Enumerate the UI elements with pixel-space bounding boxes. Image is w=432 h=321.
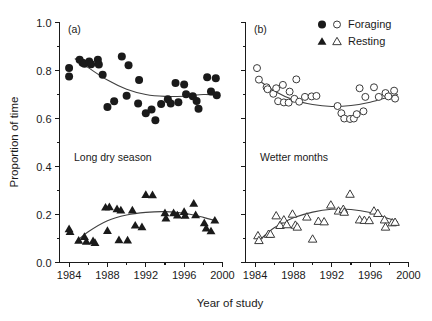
panel-label: (a) <box>68 23 81 35</box>
data-point-foraging <box>65 73 73 81</box>
data-point-foraging <box>385 93 392 100</box>
data-point-foraging <box>193 97 201 105</box>
x-tick-label: 1996 <box>172 269 196 281</box>
data-point-foraging <box>279 81 286 88</box>
x-tick-label: 1988 <box>281 269 305 281</box>
data-point-foraging <box>353 111 360 118</box>
panel-annotation: Wetter months <box>260 151 328 163</box>
y-axis-title: Proportion of time <box>8 97 20 188</box>
x-tick-label: 2000 <box>396 269 420 281</box>
x-axis-title: Year of study <box>197 297 264 309</box>
data-point-foraging <box>134 99 142 107</box>
data-point-foraging <box>360 108 367 115</box>
x-tick-label: 1996 <box>358 269 382 281</box>
data-point-foraging <box>135 76 143 84</box>
x-tick-label: 1992 <box>320 269 344 281</box>
data-point-foraging <box>65 64 73 72</box>
data-point-foraging <box>174 98 182 106</box>
data-point-foraging <box>157 100 165 108</box>
data-point-foraging <box>195 105 203 113</box>
y-tick-label: 1.0 <box>36 17 51 29</box>
data-point-foraging <box>313 92 320 99</box>
data-point-foraging <box>203 73 211 81</box>
data-point-foraging <box>103 103 111 111</box>
data-point-foraging <box>213 91 221 99</box>
y-tick-label: 0.6 <box>36 113 51 125</box>
data-point-foraging <box>293 76 300 83</box>
x-tick-label: 1984 <box>243 269 267 281</box>
y-tick-label: 0.0 <box>36 257 51 269</box>
legend-label-foraging: Foraging <box>348 18 391 30</box>
x-tick-label: 1988 <box>95 269 119 281</box>
y-tick-label: 0.8 <box>36 65 51 77</box>
data-point-foraging <box>362 93 369 100</box>
data-point-foraging <box>392 95 399 102</box>
data-point-foraging <box>286 88 293 95</box>
x-tick-label: 1984 <box>57 269 81 281</box>
data-point-foraging <box>301 93 308 100</box>
data-point-foraging <box>255 76 262 83</box>
y-tick-label: 0.4 <box>36 161 51 173</box>
scatter-chart: 0.00.20.40.60.81.019841988199219962000(a… <box>0 0 432 321</box>
data-point-foraging <box>296 98 303 105</box>
data-point-foraging <box>391 87 398 94</box>
figure-container: 0.00.20.40.60.81.019841988199219962000(a… <box>0 0 432 321</box>
data-point-foraging <box>99 71 107 79</box>
x-tick-label: 2000 <box>210 269 234 281</box>
panel-annotation: Long dry season <box>74 151 152 163</box>
data-point-foraging <box>273 85 280 92</box>
data-point-foraging <box>375 93 382 100</box>
data-point-foraging <box>180 80 188 88</box>
legend-marker-open-foraging <box>334 21 341 28</box>
data-point-foraging <box>125 61 133 69</box>
data-point-foraging <box>123 92 131 100</box>
data-point-foraging <box>356 85 363 92</box>
x-tick-label: 1992 <box>134 269 158 281</box>
data-point-foraging <box>172 79 180 87</box>
data-point-foraging <box>334 103 341 110</box>
data-point-foraging <box>212 74 220 82</box>
legend-label-resting: Resting <box>348 35 385 47</box>
data-point-foraging <box>95 61 103 69</box>
panel-label: (b) <box>254 23 267 35</box>
data-point-foraging <box>370 84 377 91</box>
data-point-foraging <box>151 116 159 124</box>
data-point-foraging <box>182 90 190 98</box>
data-point-foraging <box>148 106 156 114</box>
data-point-foraging <box>254 65 261 72</box>
legend-marker-filled-foraging <box>318 21 326 29</box>
data-point-foraging <box>87 60 95 68</box>
y-tick-label: 0.2 <box>36 209 51 221</box>
data-point-foraging <box>118 53 126 61</box>
data-point-foraging <box>167 99 175 107</box>
data-point-foraging <box>110 97 118 105</box>
